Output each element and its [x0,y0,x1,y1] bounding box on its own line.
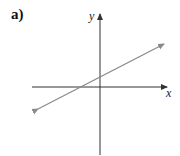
coordinate-plane: x y [0,0,180,156]
x-axis-label: x [165,86,172,100]
plotted-line [38,44,164,109]
y-axis-label: y [88,9,95,23]
